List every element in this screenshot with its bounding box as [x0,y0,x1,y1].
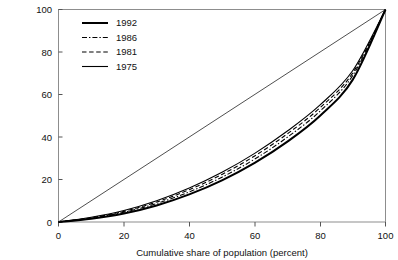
y-tick-label: 60 [41,89,52,100]
x-axis-title: Cumulative share of population (percent) [136,247,308,258]
series-line-equality [59,10,386,223]
x-tick-label: 20 [119,230,130,241]
y-tick-label: 40 [41,132,52,143]
curve-group [59,10,386,223]
x-tick-label: 0 [56,230,61,241]
y-tick-label: 80 [41,47,52,58]
chart-legend: 1992198619811975 [82,17,137,72]
x-tick-labels: 0 20 40 60 80 100 [56,230,394,241]
x-axis-ticks [59,222,386,227]
y-tick-label: 20 [41,174,52,185]
chart-figure: 0 20 40 60 80 100 0 20 40 60 80 100 Cumu… [0,0,398,260]
legend-label-1986: 1986 [116,32,137,43]
legend-label-1975: 1975 [116,61,137,72]
x-tick-label: 40 [184,230,195,241]
y-axis-ticks [59,10,63,223]
y-tick-label: 0 [47,217,52,228]
x-tick-label: 100 [378,230,394,241]
x-tick-label: 60 [250,230,261,241]
y-tick-label: 100 [36,4,52,15]
legend-label-1981: 1981 [116,46,137,57]
legend-label-1992: 1992 [116,17,137,28]
x-tick-label: 80 [315,230,326,241]
lorenz-curve-chart: 0 20 40 60 80 100 0 20 40 60 80 100 Cumu… [0,0,398,260]
y-tick-labels: 0 20 40 60 80 100 [36,4,52,228]
